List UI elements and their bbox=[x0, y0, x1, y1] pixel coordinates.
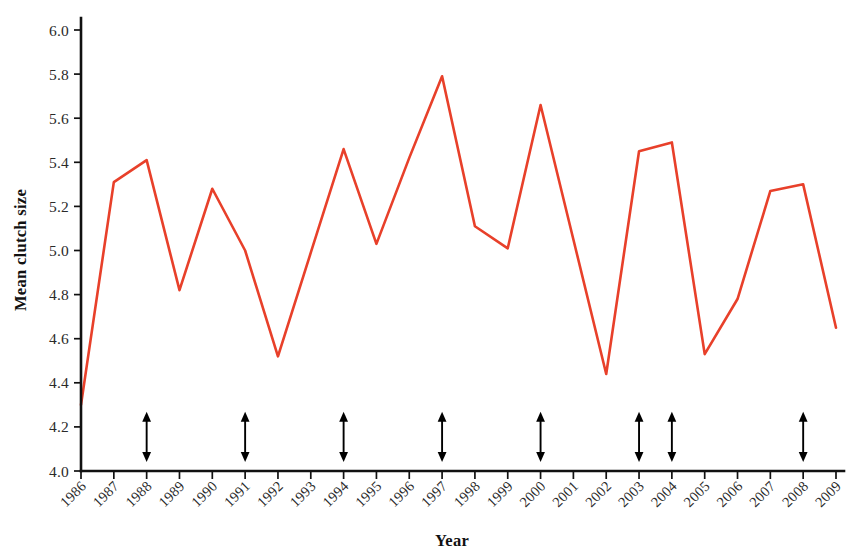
data-series-line bbox=[81, 76, 836, 405]
x-axis-tick-label: 2006 bbox=[713, 478, 745, 510]
y-axis-tick-label: 4.4 bbox=[49, 374, 69, 391]
x-axis-tick-label: 1989 bbox=[155, 478, 187, 510]
arrow-head-up-icon bbox=[438, 412, 447, 422]
arrow-head-down-icon bbox=[635, 452, 644, 462]
arrow-head-up-icon bbox=[667, 412, 676, 422]
y-axis-tick-label: 5.2 bbox=[49, 198, 69, 215]
arrow-head-up-icon bbox=[142, 412, 151, 422]
arrow-head-down-icon bbox=[339, 452, 348, 462]
x-axis-tick-label: 1988 bbox=[122, 478, 154, 510]
x-axis-tick-label: 1994 bbox=[319, 477, 352, 510]
arrow-head-up-icon bbox=[799, 412, 808, 422]
x-axis-tick-label: 1986 bbox=[57, 478, 89, 510]
x-axis-tick-labels: 1986198719881989199019911992199319941995… bbox=[57, 477, 844, 510]
x-axis-title: Year bbox=[435, 531, 469, 550]
x-axis-tick-label: 1995 bbox=[352, 478, 384, 510]
x-axis-tick-label: 2002 bbox=[582, 478, 614, 510]
arrow-head-down-icon bbox=[241, 452, 250, 462]
y-axis-tick-label: 4.2 bbox=[49, 418, 69, 435]
x-axis-tick-label: 2004 bbox=[648, 477, 681, 510]
year-marker-arrow bbox=[799, 412, 808, 462]
arrow-head-down-icon bbox=[536, 452, 545, 462]
x-axis-tick-label: 2000 bbox=[516, 478, 548, 510]
y-axis-tick-label: 4.0 bbox=[49, 463, 69, 480]
y-axis-tick-label: 4.6 bbox=[49, 330, 69, 347]
x-axis-tick-label: 1991 bbox=[221, 478, 253, 510]
year-marker-arrow bbox=[667, 412, 676, 462]
x-axis-tick-label: 1996 bbox=[385, 478, 417, 510]
arrow-head-up-icon bbox=[536, 412, 545, 422]
y-axis-tick-label: 6.0 bbox=[49, 22, 69, 39]
x-axis-tick-label: 2005 bbox=[680, 478, 712, 510]
year-marker-arrow bbox=[635, 412, 644, 462]
x-axis-tick-label: 1997 bbox=[418, 478, 450, 510]
x-axis-tick-label: 2008 bbox=[779, 478, 811, 510]
x-axis-tick-label: 1993 bbox=[287, 478, 319, 510]
x-axis-tick-label: 1992 bbox=[254, 478, 286, 510]
arrow-head-up-icon bbox=[339, 412, 348, 422]
year-marker-arrow bbox=[438, 412, 447, 462]
x-axis-tick-label: 2003 bbox=[615, 478, 647, 510]
x-axis-tick-label: 2007 bbox=[746, 478, 778, 510]
arrow-head-down-icon bbox=[142, 452, 151, 462]
year-marker-arrow bbox=[536, 412, 545, 462]
y-axis-tick-label: 5.8 bbox=[49, 66, 69, 83]
x-axis-tick-label: 1999 bbox=[483, 478, 515, 510]
arrow-head-down-icon bbox=[667, 452, 676, 462]
arrow-head-up-icon bbox=[635, 412, 644, 422]
year-marker-arrow bbox=[241, 412, 250, 462]
arrow-head-down-icon bbox=[799, 452, 808, 462]
line-chart: 4.04.24.44.64.85.05.25.45.65.86.0 198619… bbox=[0, 0, 862, 560]
arrow-head-up-icon bbox=[241, 412, 250, 422]
year-marker-arrow bbox=[339, 412, 348, 462]
x-axis-tick-label: 2001 bbox=[549, 478, 581, 510]
y-axis-tick-label: 5.4 bbox=[49, 154, 69, 171]
arrow-head-down-icon bbox=[438, 452, 447, 462]
x-axis-tick-label: 1990 bbox=[188, 478, 220, 510]
x-axis-tick-label: 1987 bbox=[90, 478, 122, 510]
year-marker-arrows bbox=[142, 412, 807, 462]
y-axis-title: Mean clutch size bbox=[11, 189, 30, 311]
y-axis-tick-label: 5.6 bbox=[49, 110, 69, 127]
x-axis-tick-label: 2009 bbox=[812, 478, 844, 510]
y-axis-tick-labels: 4.04.24.44.64.85.05.25.45.65.86.0 bbox=[49, 22, 69, 480]
year-marker-arrow bbox=[142, 412, 151, 462]
y-axis-tick-label: 4.8 bbox=[49, 286, 69, 303]
x-axis-tick-label: 1998 bbox=[451, 478, 483, 510]
chart-container: 4.04.24.44.64.85.05.25.45.65.86.0 198619… bbox=[0, 0, 862, 560]
y-axis-tick-label: 5.0 bbox=[49, 242, 69, 259]
